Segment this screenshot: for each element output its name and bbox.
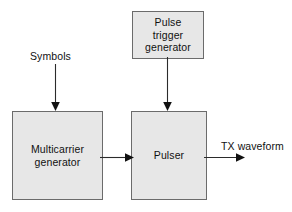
block-pulser-label: Pulser	[152, 149, 186, 162]
block-multicarrier-generator[interactable]: Multicarrier generator	[12, 111, 103, 200]
block-pulse-trigger-generator[interactable]: Pulse trigger generator	[132, 11, 204, 59]
arrow-multicarrier-to-pulser	[100, 147, 136, 169]
arrow-pulser-to-output	[204, 147, 249, 169]
block-multicarrier-generator-label: Multicarrier generator	[29, 143, 86, 168]
arrow-symbols-to-multicarrier	[45, 64, 67, 114]
block-pulse-trigger-generator-label: Pulse trigger generator	[143, 16, 193, 54]
arrow-trigger-to-pulser	[157, 57, 179, 114]
block-pulser[interactable]: Pulser	[131, 111, 207, 200]
block-diagram-canvas: Pulse trigger generator Multicarrier gen…	[0, 0, 292, 212]
label-symbols: Symbols	[30, 50, 71, 62]
